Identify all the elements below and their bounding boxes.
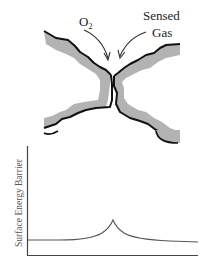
grain-diagram: O2 Sensed Gas [44, 8, 180, 143]
gas-arrow [120, 32, 146, 56]
grain-bottom-left [44, 131, 58, 134]
depletion-layer-upper-right [114, 44, 180, 140]
sensed-gas-label-line1: Sensed [143, 8, 180, 23]
energy-barrier-curve [28, 220, 198, 242]
grain-bottom-right [156, 130, 180, 143]
sensed-gas-label-line2: Gas [152, 25, 172, 40]
grain-boundary-figure: O2 Sensed Gas Surface Energy Barrier [0, 0, 208, 270]
o2-label: O2 [79, 14, 92, 31]
energy-barrier-plot: Surface Energy Barrier [14, 146, 198, 256]
y-axis-label: Surface Energy Barrier [14, 158, 24, 247]
